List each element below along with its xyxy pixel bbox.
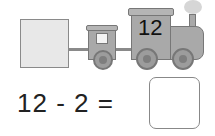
smoke-icon (184, 0, 202, 14)
car-window (96, 33, 108, 44)
car-wheel-icon (93, 50, 113, 70)
equation: 12 - 2 = (17, 88, 114, 119)
locomotive-number: 12 (138, 15, 162, 41)
locomotive-wheel-icon (172, 48, 194, 70)
locomotive-wheel-icon (136, 48, 158, 70)
empty-car-box (20, 19, 69, 68)
answer-box[interactable] (149, 77, 200, 129)
